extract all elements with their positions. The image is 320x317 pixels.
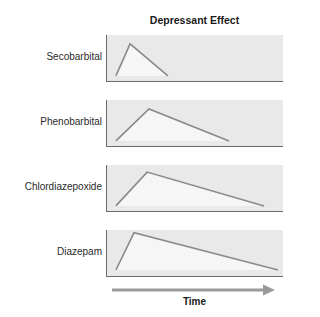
row-label-chlordiazepoxide: Chlordiazepoxide (25, 181, 102, 192)
panel-secobarbital (106, 35, 283, 82)
time-arrow-icon (110, 284, 280, 296)
row-label-phenobarbital: Phenobarbital (40, 116, 102, 127)
x-axis-label: Time (106, 296, 283, 307)
row-label-diazepam: Diazepam (57, 246, 102, 257)
panel-phenobarbital (106, 100, 283, 147)
panel-diazepam (106, 230, 283, 277)
chart-title: Depressant Effect (106, 14, 283, 26)
panel-chlordiazepoxide (106, 165, 283, 212)
row-label-secobarbital: Secobarbital (46, 51, 102, 62)
